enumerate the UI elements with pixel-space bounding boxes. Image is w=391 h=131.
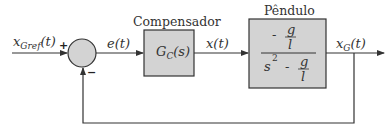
den-s: s <box>264 59 271 74</box>
input-arg: (t) <box>41 34 56 49</box>
tf-base: G <box>156 44 166 59</box>
block-diagram: xGref(t) + − e(t) Compensador GC(s) x(t)… <box>0 0 391 131</box>
output-subscript: G <box>343 43 350 53</box>
output-arg: (t) <box>351 36 366 51</box>
den-exponent: 2 <box>272 53 278 63</box>
den-sign: - <box>285 59 289 74</box>
den-g: g <box>300 54 308 69</box>
tf-arg: (s) <box>173 44 190 59</box>
num-l: l <box>288 37 292 52</box>
minus-sign: − <box>87 66 96 79</box>
error-signal-label: e(t) <box>107 36 130 51</box>
num-g: g <box>287 22 295 37</box>
compensator-tf: GC(s) <box>156 44 190 59</box>
tf-subscript: C <box>166 51 173 61</box>
plus-sign: + <box>59 39 68 52</box>
output-signal-label: xG(t) <box>336 36 366 51</box>
den-l: l <box>301 69 305 84</box>
plant-title: Pêndulo <box>264 3 315 18</box>
summing-junction <box>68 39 96 67</box>
input-subscript: Gref <box>20 41 40 51</box>
num-sign: - <box>272 27 276 42</box>
control-signal-label: x(t) <box>206 36 229 51</box>
input-signal-label: xGref(t) <box>13 34 56 49</box>
compensator-title: Compensador <box>133 14 221 29</box>
